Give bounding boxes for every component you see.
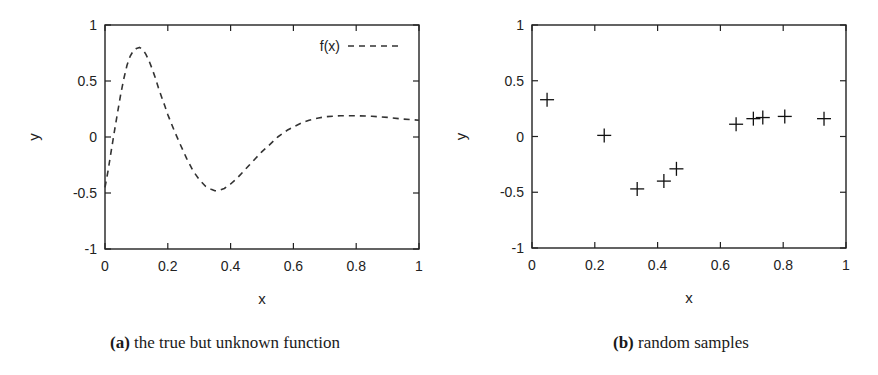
y-axis-label: y <box>452 132 469 140</box>
scatter-point-plus <box>540 93 554 107</box>
scatter-point-plus <box>630 182 644 196</box>
x-tick-label: 0.4 <box>648 257 668 273</box>
x-tick-label: 0.2 <box>158 258 178 274</box>
scatter-point-plus <box>817 112 831 126</box>
scatter-point-plus <box>778 109 792 123</box>
chart-b-svg: 00.20.40.60.81-1-0.500.51xy <box>439 0 878 330</box>
plot-frame <box>105 25 419 249</box>
caption-b-text: random samples <box>638 333 749 352</box>
y-tick-label: -0.5 <box>500 184 524 200</box>
y-tick-label: -1 <box>85 241 98 257</box>
scatter-point-plus <box>746 112 760 126</box>
x-tick-label: 0.4 <box>221 258 241 274</box>
caption-b-tag: (b) <box>613 333 634 352</box>
panel-a-true-function: 00.20.40.60.81-1-0.500.51xyf(x) (a) the … <box>0 0 439 375</box>
scatter-point-plus <box>669 162 683 176</box>
y-axis-label: y <box>25 133 42 141</box>
caption-a: (a) the true but unknown function <box>110 333 340 353</box>
x-tick-label: 0.8 <box>773 257 793 273</box>
caption-a-text: the true but unknown function <box>134 333 340 352</box>
y-tick-label: -0.5 <box>73 185 97 201</box>
caption-a-tag: (a) <box>110 333 130 352</box>
scatter-point-plus <box>657 174 671 188</box>
x-tick-label: 0 <box>528 257 536 273</box>
scatter-point-plus <box>729 117 743 131</box>
y-tick-label: 0.5 <box>505 73 525 89</box>
x-tick-label: 1 <box>415 258 423 274</box>
caption-b: (b) random samples <box>613 333 749 353</box>
legend-label: f(x) <box>320 38 340 54</box>
y-tick-label: 0 <box>89 129 97 145</box>
x-tick-label: 1 <box>842 257 850 273</box>
chart-a-svg: 00.20.40.60.81-1-0.500.51xyf(x) <box>0 0 439 330</box>
x-tick-label: 0.6 <box>284 258 304 274</box>
x-tick-label: 0 <box>101 258 109 274</box>
y-tick-label: 1 <box>516 17 524 33</box>
series-line-fx <box>105 47 419 190</box>
y-tick-label: 0.5 <box>78 73 98 89</box>
x-axis-label: x <box>258 290 266 307</box>
x-axis-label: x <box>685 289 693 306</box>
plot-frame <box>532 25 846 248</box>
y-tick-label: 0 <box>516 129 524 145</box>
y-tick-label: 1 <box>89 17 97 33</box>
x-tick-label: 0.8 <box>346 258 366 274</box>
y-tick-label: -1 <box>512 240 525 256</box>
x-tick-label: 0.6 <box>711 257 731 273</box>
scatter-point-plus <box>756 111 770 125</box>
x-tick-label: 0.2 <box>585 257 605 273</box>
panel-b-random-samples: 00.20.40.60.81-1-0.500.51xy (b) random s… <box>439 0 878 375</box>
scatter-point-plus <box>597 128 611 142</box>
